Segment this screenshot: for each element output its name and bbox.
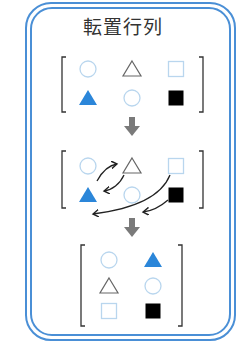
- circle-outline-icon: [124, 90, 140, 106]
- curved-swap-arrow: [93, 175, 170, 214]
- left-bracket: [62, 57, 66, 112]
- triangle-outline-icon: [100, 278, 118, 293]
- matrix-original: [62, 57, 203, 112]
- curved-swap-arrow: [97, 164, 117, 181]
- circle-outline-icon: [124, 187, 140, 203]
- left-bracket: [62, 151, 66, 208]
- right-bracket: [199, 57, 203, 112]
- square-outline-icon: [102, 304, 117, 319]
- right-bracket: [178, 245, 182, 326]
- left-bracket: [81, 245, 85, 326]
- square-filled-black-icon: [146, 304, 161, 319]
- square-filled-black-icon: [169, 188, 184, 203]
- square-filled-black-icon: [169, 91, 184, 106]
- triangle-filled-blue-icon: [79, 90, 97, 105]
- square-outline-icon: [169, 159, 184, 174]
- triangle-filled-blue-icon: [144, 252, 162, 267]
- down-arrow-icon: [124, 218, 140, 237]
- curved-swap-arrow: [104, 175, 124, 191]
- triangle-outline-icon: [123, 158, 141, 173]
- triangle-outline-icon: [123, 61, 141, 76]
- matrix-transposed: [81, 245, 182, 326]
- diagram-canvas: [0, 0, 246, 359]
- square-outline-icon: [169, 62, 184, 77]
- triangle-filled-blue-icon: [79, 187, 97, 202]
- curved-swap-arrow: [143, 200, 168, 212]
- circle-outline-icon: [80, 158, 96, 174]
- circle-outline-icon: [145, 278, 161, 294]
- down-arrow-icon: [124, 117, 140, 136]
- circle-outline-icon: [101, 252, 117, 268]
- matrix-swap-illustration: [62, 151, 203, 214]
- right-bracket: [199, 151, 203, 208]
- circle-outline-icon: [80, 61, 96, 77]
